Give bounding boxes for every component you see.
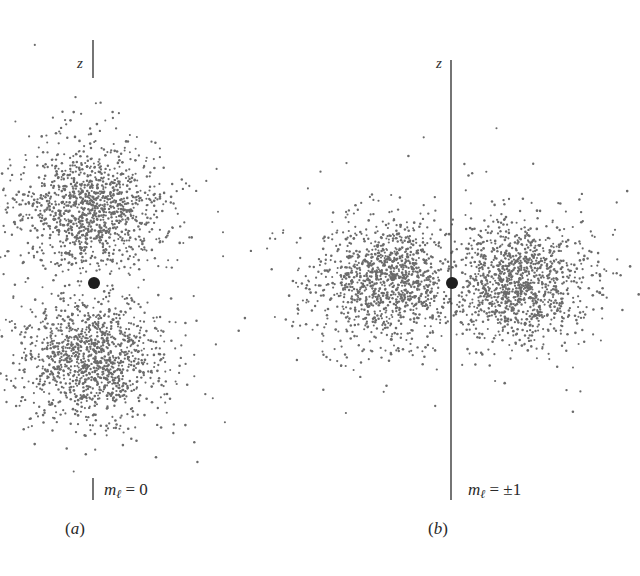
ml-label-a: mℓ = 0: [104, 481, 148, 500]
ml-value-a: = 0: [121, 480, 148, 499]
z-axis-label-a: z: [77, 56, 83, 71]
ml-value-b: = ±1: [485, 480, 521, 499]
electron-cloud-a: [0, 44, 246, 473]
caption-close-b: ): [442, 519, 448, 538]
ml-symbol-a: m: [104, 480, 116, 499]
z-axis-label-b: z: [436, 56, 442, 71]
orbital-figure: z mℓ = 0 (a) z mℓ = ±1 (b): [0, 0, 640, 576]
nucleus-b: [446, 277, 458, 289]
panel-caption-a: (a): [65, 520, 85, 537]
panel-caption-b: (b): [428, 520, 448, 537]
nucleus-a: [88, 277, 100, 289]
dot-density-plot: [0, 0, 640, 576]
ml-label-b: mℓ = ±1: [468, 481, 521, 500]
electron-cloud-b: [250, 127, 640, 414]
caption-letter-b: b: [434, 519, 443, 538]
caption-letter-a: a: [71, 519, 80, 538]
ml-symbol-b: m: [468, 480, 480, 499]
caption-close-a: ): [79, 519, 85, 538]
